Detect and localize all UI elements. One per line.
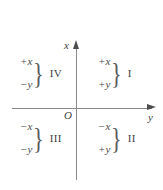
quadrant-group-lower-left: −x −y } III — [20, 121, 62, 155]
vertical-axis-arrowhead-icon — [73, 40, 79, 49]
quadrant-group-upper-left: +x −y } IV — [20, 56, 62, 90]
horizontal-axis-label: y — [148, 112, 153, 123]
quadrant-numeral-lower-right: II — [128, 132, 136, 144]
sign-pair-lower-left: −x −y — [20, 121, 32, 155]
quadrant-numeral-upper-right: I — [128, 67, 132, 79]
quadrant-numeral-upper-left: IV — [50, 67, 62, 79]
brace-icon-lower-right: } — [111, 124, 122, 153]
sign-pair-upper-right: +x +y — [98, 56, 110, 90]
sign-x-lower-right: −x — [98, 121, 110, 132]
vertical-axis-label: x — [64, 40, 69, 51]
quadrant-group-upper-right: +x +y } I — [98, 56, 132, 90]
vertical-axis-line — [76, 46, 77, 180]
sign-pair-lower-right: −x +y — [98, 121, 110, 155]
sign-y-lower-left: −y — [20, 144, 32, 155]
sign-y-upper-left: −y — [20, 79, 32, 90]
quadrant-numeral-lower-left: III — [50, 132, 62, 144]
sign-y-upper-right: +y — [98, 79, 110, 90]
origin-label: O — [64, 110, 72, 121]
brace-icon-lower-left: } — [33, 124, 44, 153]
quadrant-sign-diagram: x y O +x −y } IV +x +y } I −x −y } III −… — [0, 0, 163, 190]
sign-x-lower-left: −x — [20, 121, 32, 132]
sign-pair-upper-left: +x −y — [20, 56, 32, 90]
sign-x-upper-left: +x — [20, 56, 32, 67]
quadrant-group-lower-right: −x +y } II — [98, 121, 136, 155]
sign-x-upper-right: +x — [98, 56, 110, 67]
horizontal-axis-line — [12, 108, 152, 109]
brace-icon-upper-left: } — [33, 59, 44, 88]
horizontal-axis-arrowhead-icon — [147, 104, 156, 110]
sign-y-lower-right: +y — [98, 144, 110, 155]
brace-icon-upper-right: } — [111, 59, 122, 88]
